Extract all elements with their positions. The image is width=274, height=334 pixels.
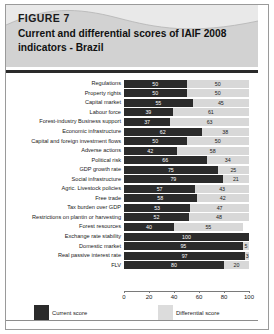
x-axis-tick-label: 20 — [146, 293, 153, 302]
value-label-differential: 61 — [208, 108, 214, 116]
chart-row: Free trade5842 — [6, 194, 258, 204]
legend-swatch-current — [34, 305, 49, 320]
value-label-current: 50 — [152, 137, 158, 145]
category-label: Economic infrastructure — [6, 128, 124, 135]
bar-track: 100 — [124, 233, 249, 241]
figure-number: FIGURE 7 — [18, 12, 254, 24]
bar-track: 7921 — [124, 175, 249, 183]
value-label-current: 37 — [144, 118, 150, 126]
value-label-differential: 58 — [210, 147, 216, 155]
chart-row: FLV8020 — [6, 260, 258, 270]
value-label-current: 39 — [145, 108, 151, 116]
bar-track: 5743 — [124, 185, 249, 193]
bar-track: 3763 — [124, 118, 249, 126]
chart-row: Capital market5545 — [6, 98, 258, 108]
chart-plot-area: Regulations5050Property rights5050Capita… — [6, 79, 258, 290]
category-label: FLV — [6, 262, 124, 269]
value-label-current: 80 — [171, 261, 177, 269]
value-label-current: 57 — [157, 185, 163, 193]
figure-header-text: FIGURE 7 Current and differential scores… — [18, 12, 254, 54]
bar-track: 5050 — [124, 137, 249, 145]
chart-row: Exchange rate stability100 — [6, 232, 258, 242]
chart-row: Domestic market955 — [6, 241, 258, 251]
category-label: Capital and foreign investment flows — [6, 138, 124, 145]
chart-legend: Current score Differential score — [6, 305, 258, 325]
chart-row: Adverse actions4258 — [6, 146, 258, 156]
chart-row: Labour force3961 — [6, 108, 258, 118]
chart-row: Forest resources4055 — [6, 222, 258, 232]
chart-row: Agric. Livestock policies5743 — [6, 184, 258, 194]
value-label-differential: 20 — [234, 261, 240, 269]
bar-track: 5545 — [124, 99, 249, 107]
chart-row: Capital and foreign investment flows5050 — [6, 136, 258, 146]
x-axis-tick-label: 100 — [244, 293, 254, 302]
value-label-differential: 47 — [217, 204, 223, 212]
value-label-differential: 50 — [215, 137, 221, 145]
legend-swatch-differential — [158, 305, 173, 320]
value-label-current: 62 — [160, 128, 166, 136]
category-label: Exchange rate stability — [6, 233, 124, 240]
bar-track: 5248 — [124, 213, 249, 221]
figure-header-band: FIGURE 7 Current and differential scores… — [6, 5, 258, 67]
value-label-current: 58 — [157, 194, 163, 202]
bar-track: 3961 — [124, 108, 249, 116]
legend-item-differential-score: Differential score — [158, 305, 219, 320]
figure-bottom-rule — [6, 320, 258, 321]
value-label-differential: 3 — [246, 252, 249, 260]
bar-track: 8020 — [124, 261, 249, 269]
value-label-current: 97 — [182, 252, 188, 260]
category-label: Property rights — [6, 90, 124, 97]
category-label: Agric. Livestock policies — [6, 185, 124, 192]
category-label: Forest resources — [6, 223, 124, 230]
value-label-current: 75 — [168, 166, 174, 174]
bar-track: 7525 — [124, 166, 249, 174]
x-axis: 020406080100 — [124, 291, 249, 303]
value-label-current: 52 — [154, 213, 160, 221]
value-label-differential: 34 — [225, 156, 231, 164]
value-label-current: 40 — [146, 223, 152, 231]
chart-row: Economic infrastructure6238 — [6, 127, 258, 137]
category-label: Labour force — [6, 109, 124, 116]
value-label-current: 50 — [152, 89, 158, 97]
category-label: Tax burden over GDP — [6, 204, 124, 211]
figure-container: FIGURE 7 Current and differential scores… — [0, 0, 274, 334]
legend-item-current-score: Current score — [34, 305, 87, 320]
x-axis-tick-label: 0 — [122, 293, 125, 302]
value-label-differential: 50 — [215, 80, 221, 88]
value-label-differential: 21 — [233, 175, 239, 183]
bar-track: 5050 — [124, 80, 249, 88]
bar-track: 955 — [124, 242, 249, 250]
bar-track: 6634 — [124, 156, 249, 164]
chart-row: Political risk6634 — [6, 155, 258, 165]
bar-track: 4258 — [124, 147, 249, 155]
bar-track: 5050 — [124, 89, 249, 97]
value-label-differential: 42 — [220, 194, 226, 202]
value-label-differential: 55 — [205, 223, 211, 231]
value-label-current: 66 — [162, 156, 168, 164]
chart-plate: Regulations5050Property rights5050Capita… — [6, 70, 258, 323]
value-label-differential: 45 — [218, 99, 224, 107]
value-label-differential: 38 — [222, 128, 228, 136]
category-label: Regulations — [6, 80, 124, 87]
value-label-differential: 63 — [207, 118, 213, 126]
category-label: Adverse actions — [6, 147, 124, 154]
category-label: GDP growth rate — [6, 166, 124, 173]
chart-row: Restrictions on plantin or harvesting524… — [6, 213, 258, 223]
category-label: Capital market — [6, 99, 124, 106]
bar-track: 5842 — [124, 194, 249, 202]
chart-row: Property rights5050 — [6, 89, 258, 99]
x-axis-line — [124, 291, 249, 292]
value-label-differential: 5 — [244, 242, 247, 250]
category-label: Restrictions on plantin or harvesting — [6, 214, 124, 221]
value-label-current: 95 — [180, 242, 186, 250]
value-label-differential: 43 — [219, 185, 225, 193]
x-axis-tick-label: 80 — [221, 293, 228, 302]
chart-row: GDP growth rate7525 — [6, 165, 258, 175]
value-label-differential: 25 — [230, 166, 236, 174]
value-label-current: 100 — [182, 233, 191, 241]
value-label-current: 55 — [155, 99, 161, 107]
legend-label-differential: Differential score — [176, 310, 219, 316]
legend-label-current: Current score — [52, 310, 87, 316]
bar-track: 6238 — [124, 128, 249, 136]
value-label-current: 50 — [152, 80, 158, 88]
